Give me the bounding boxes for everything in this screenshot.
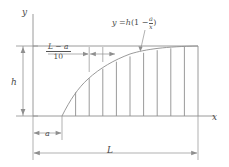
curve-equation-label: y =h(1 −ax) (112, 16, 156, 31)
height-dimension-label: h (11, 78, 17, 87)
strip-width-numerator: L − a (46, 43, 71, 51)
y-axis-label: y (22, 8, 27, 17)
equation-lhs: y = (112, 18, 126, 27)
equation-open-paren: (1 − (131, 18, 148, 27)
offset-dimension-label: a (45, 130, 50, 138)
strip-width-denominator: 10 (46, 53, 71, 61)
strip-width-label: L − a 10 (46, 43, 71, 60)
equation-close-paren: ) (153, 18, 156, 27)
x-axis-label: x (212, 113, 217, 122)
total-length-dimension-label: L (107, 146, 113, 155)
dimension-arrowheads (34, 46, 198, 155)
